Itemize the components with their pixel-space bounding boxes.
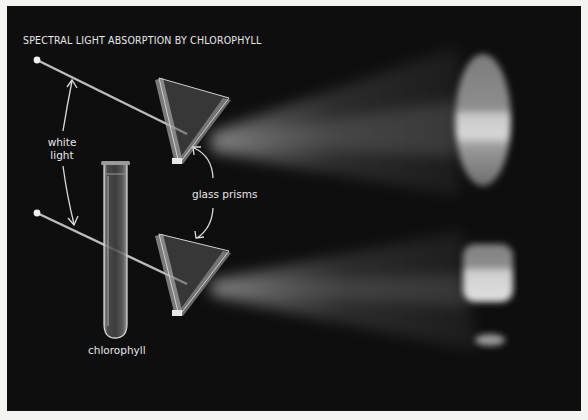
light-fan-top bbox=[207, 46, 459, 196]
arrow-prism-up-icon bbox=[193, 147, 213, 178]
light-fan-bottom bbox=[207, 231, 477, 351]
figure-title: SPECTRAL LIGHT ABSORPTION BY CHLOROPHYLL bbox=[23, 34, 261, 46]
arrow-prism-down-icon bbox=[195, 208, 213, 238]
point-dot-icon bbox=[34, 57, 41, 64]
arrow-white-light-up-icon bbox=[63, 80, 77, 131]
label-glass-prisms: glass prisms bbox=[192, 188, 257, 201]
label-white-light-line1: white bbox=[44, 136, 80, 149]
spectrum-top bbox=[455, 54, 511, 186]
label-white-light-line2: light bbox=[44, 149, 80, 162]
arrow-white-light-down-icon bbox=[63, 166, 78, 225]
point-dot-icon bbox=[34, 210, 41, 217]
prism-bottom bbox=[155, 234, 231, 316]
label-chlorophyll: chlorophyll bbox=[88, 344, 146, 357]
label-white-light: white light bbox=[44, 136, 80, 162]
diagram-panel: SPECTRAL LIGHT ABSORPTION BY CHLOROPHYLL… bbox=[7, 6, 581, 411]
test-tube-icon bbox=[101, 161, 130, 338]
